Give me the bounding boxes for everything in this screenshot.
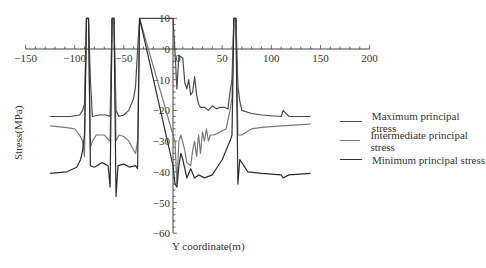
x-tick-label: 100 <box>263 52 280 64</box>
x-tick-label: −100 <box>63 52 86 64</box>
legend: Maximum principal stress Intermediate pr… <box>340 112 486 169</box>
y-tick-label: −40 <box>153 166 171 178</box>
legend-item-intermediate: Intermediate principal stress <box>340 131 486 150</box>
y-tick-label: −50 <box>153 197 171 209</box>
legend-swatch-minimum <box>340 159 362 160</box>
axes: −150−100−50501001502000100−10−20−30−40−5… <box>14 12 378 239</box>
x-axis-label: Y coordinate(m) <box>172 240 245 253</box>
x-tick-label: 150 <box>312 52 329 64</box>
y-tick-label: 0 <box>165 43 171 55</box>
legend-item-minimum: Minimum principal stress <box>340 150 486 169</box>
legend-swatch-maximum <box>340 121 362 122</box>
legend-label: Intermediate principal stress <box>370 129 486 153</box>
y-tick-label: −60 <box>153 227 171 239</box>
x-tick-label: 200 <box>361 52 378 64</box>
y-axis-label: Stress(MPa) <box>12 105 25 160</box>
x-tick-label: −150 <box>14 52 37 64</box>
x-tick-label: 50 <box>217 52 229 64</box>
legend-swatch-intermediate <box>340 140 360 141</box>
legend-label: Minimum principal stress <box>372 154 485 166</box>
x-tick-label: −50 <box>115 52 133 64</box>
